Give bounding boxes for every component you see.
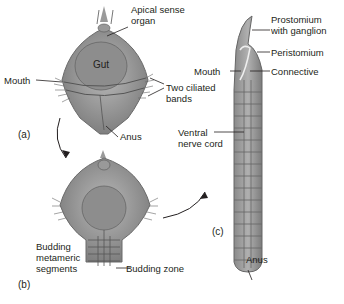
label-mouth-c: Mouth <box>194 66 220 77</box>
panel-label-b: (b) <box>18 279 30 290</box>
label-prostomium: Prostomium with ganglion <box>271 14 326 36</box>
label-anus-a: Anus <box>120 131 142 142</box>
figure: Apical sense organ Gut Mouth Two ciliate… <box>0 0 344 304</box>
panel-label-c: (c) <box>212 226 224 237</box>
label-anus-c: Anus <box>246 254 268 265</box>
label-apical-sense-organ: Apical sense organ <box>131 4 185 26</box>
label-two-ciliated-bands: Two ciliated bands <box>166 82 216 104</box>
label-budding-metameric-segments: Budding metameric segments <box>36 241 80 274</box>
label-ventral-nerve-cord: Ventral nerve cord <box>178 127 223 149</box>
label-mouth-a: Mouth <box>4 75 30 86</box>
label-gut: Gut <box>93 59 109 70</box>
label-budding-zone: Budding zone <box>126 263 184 274</box>
label-peristomium: Peristomium <box>271 47 324 58</box>
label-connective: Connective <box>271 66 319 77</box>
panel-label-a: (a) <box>18 129 30 140</box>
segmented-worm-c <box>234 16 262 272</box>
